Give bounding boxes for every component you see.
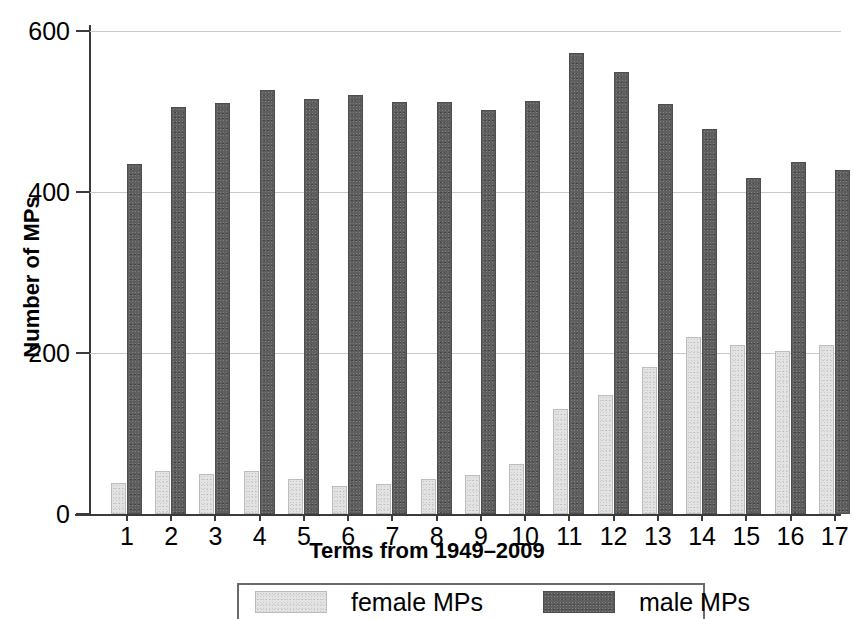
y-tick-label-600: 600 bbox=[0, 17, 70, 46]
gridline-600 bbox=[90, 31, 841, 32]
legend-item-female: female MPs bbox=[255, 585, 483, 619]
bar-male-term-4 bbox=[260, 90, 275, 514]
bar-female-term-13 bbox=[642, 367, 657, 514]
bar-male-term-3 bbox=[215, 103, 230, 514]
bar-male-term-9 bbox=[481, 110, 496, 514]
bar-chart: Number of MPs 0200400600 123456789101112… bbox=[0, 0, 854, 619]
x-tick-mark-4 bbox=[259, 514, 261, 521]
bar-male-term-10 bbox=[525, 101, 540, 514]
bar-female-term-16 bbox=[775, 351, 790, 514]
y-tick-mark-600 bbox=[76, 30, 90, 32]
y-tick-mark-200 bbox=[76, 352, 90, 354]
bar-male-term-11 bbox=[569, 53, 584, 514]
gridline-400 bbox=[90, 192, 841, 193]
bar-female-term-1 bbox=[111, 483, 126, 514]
bar-female-term-5 bbox=[288, 479, 303, 514]
x-tick-mark-8 bbox=[436, 514, 438, 521]
plot-area: 0200400600 1234567891011121314151617 bbox=[89, 25, 841, 515]
y-tick-label-200: 200 bbox=[0, 339, 70, 368]
bar-male-term-6 bbox=[348, 95, 363, 514]
y-tick-mark-400 bbox=[76, 191, 90, 193]
x-tick-mark-9 bbox=[480, 514, 482, 521]
x-tick-mark-15 bbox=[745, 514, 747, 521]
bar-male-term-16 bbox=[791, 162, 806, 514]
bar-male-term-8 bbox=[437, 102, 452, 514]
x-tick-mark-5 bbox=[303, 514, 305, 521]
gridline-200 bbox=[90, 353, 841, 354]
bar-male-term-2 bbox=[171, 107, 186, 514]
legend: female MPs male MPs bbox=[237, 583, 705, 619]
x-tick-mark-7 bbox=[391, 514, 393, 521]
bar-female-term-4 bbox=[244, 471, 259, 514]
bar-male-term-13 bbox=[658, 104, 673, 514]
bar-female-term-2 bbox=[155, 471, 170, 514]
bar-female-term-7 bbox=[376, 484, 391, 514]
bar-female-term-3 bbox=[199, 474, 214, 514]
legend-item-male: male MPs bbox=[543, 585, 750, 619]
y-tick-label-0: 0 bbox=[0, 500, 70, 529]
legend-label-female: female MPs bbox=[351, 588, 483, 617]
x-tick-mark-16 bbox=[790, 514, 792, 521]
x-tick-mark-1 bbox=[126, 514, 128, 521]
bar-female-term-9 bbox=[465, 475, 480, 514]
y-axis-line bbox=[89, 25, 91, 515]
x-tick-mark-2 bbox=[170, 514, 172, 521]
legend-swatch-male-icon bbox=[543, 591, 615, 613]
bar-male-term-1 bbox=[127, 164, 142, 514]
x-tick-mark-14 bbox=[701, 514, 703, 521]
bar-male-term-5 bbox=[304, 99, 319, 514]
bar-male-term-7 bbox=[392, 102, 407, 514]
y-tick-mark-0 bbox=[76, 513, 90, 515]
bar-female-term-10 bbox=[509, 464, 524, 514]
bar-female-term-8 bbox=[421, 479, 436, 514]
bar-male-term-15 bbox=[746, 178, 761, 514]
x-axis-title: Terms from 1949–2009 bbox=[0, 538, 854, 564]
legend-label-male: male MPs bbox=[639, 588, 750, 617]
x-tick-mark-12 bbox=[613, 514, 615, 521]
x-axis-line bbox=[75, 514, 841, 516]
bar-male-term-12 bbox=[614, 72, 629, 514]
x-tick-mark-3 bbox=[214, 514, 216, 521]
legend-swatch-female-icon bbox=[255, 591, 327, 613]
x-tick-mark-17 bbox=[834, 514, 836, 521]
bar-female-term-11 bbox=[553, 409, 568, 514]
x-tick-mark-6 bbox=[347, 514, 349, 521]
x-tick-mark-10 bbox=[524, 514, 526, 521]
x-tick-mark-11 bbox=[568, 514, 570, 521]
bar-female-term-6 bbox=[332, 486, 347, 514]
bar-female-term-12 bbox=[598, 395, 613, 514]
bar-male-term-14 bbox=[702, 129, 717, 514]
y-tick-label-400: 400 bbox=[0, 178, 70, 207]
bar-female-term-14 bbox=[686, 337, 701, 514]
bar-male-term-17 bbox=[835, 170, 850, 514]
x-tick-mark-13 bbox=[657, 514, 659, 521]
bar-female-term-17 bbox=[819, 345, 834, 514]
bar-female-term-15 bbox=[730, 345, 745, 514]
